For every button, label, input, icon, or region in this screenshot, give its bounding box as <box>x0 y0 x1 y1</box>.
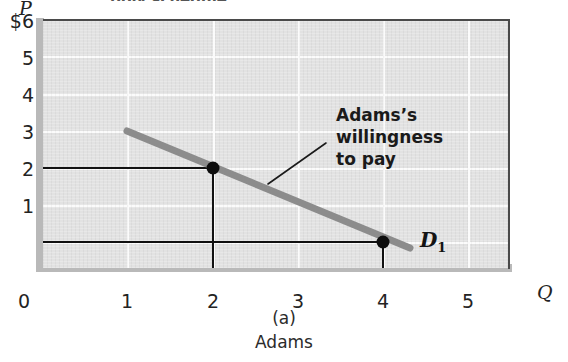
cropped-header-text: pply schedule <box>110 0 310 1</box>
y-tick-label-3: 3 <box>0 121 34 143</box>
annotation-willingness-to-pay: Adams’s willingness to pay <box>336 104 443 170</box>
y-axis-symbol: P <box>19 0 32 19</box>
gridline-v-3 <box>298 20 300 268</box>
y-tick-label-1: 1 <box>0 195 34 217</box>
gridline-h-6 <box>43 56 510 58</box>
curve-label-letter: D <box>420 228 437 252</box>
panel-label: (a) <box>0 306 568 330</box>
data-point-q4-p1 <box>377 236 390 249</box>
annotation-line-3: to pay <box>336 148 443 170</box>
guide-line-price-1 <box>43 241 384 243</box>
x-axis-symbol: Q <box>537 281 553 303</box>
curve-label-d1: D1 <box>420 228 446 255</box>
guide-line-price-3 <box>43 167 214 169</box>
plot-top-border <box>43 19 510 21</box>
y-tick-label-2: 2 <box>0 158 34 180</box>
plot-right-border <box>508 19 510 269</box>
figure-caption: (a) Adams <box>0 306 568 354</box>
annotation-line-2: willingness <box>336 126 443 148</box>
curve-label-subscript: 1 <box>437 240 446 255</box>
panel-subtitle: Adams <box>0 330 568 354</box>
data-point-q2-p3 <box>207 162 220 175</box>
gridline-v-1 <box>127 20 129 268</box>
y-tick-label-5: 5 <box>0 47 34 69</box>
gridline-h-2 <box>43 205 510 207</box>
annotation-line-1: Adams’s <box>336 104 443 126</box>
figure-panel-a: pply schedule $6 5 4 3 2 <box>0 0 568 362</box>
gridline-h-5 <box>43 94 510 96</box>
guide-line-quantity-2 <box>212 167 214 268</box>
y-tick-label-4: 4 <box>0 84 34 106</box>
gridline-v-5 <box>468 20 470 268</box>
